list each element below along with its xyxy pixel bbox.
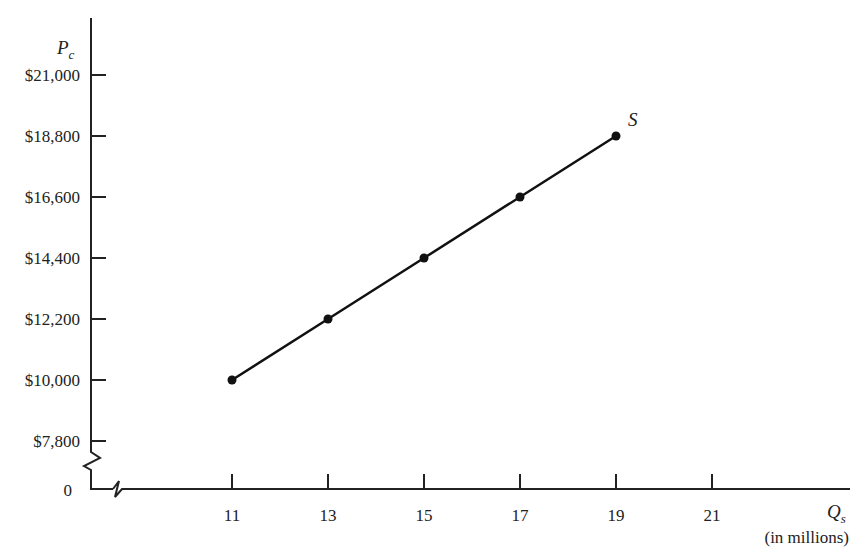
x-axis-title: Qs <box>827 501 846 526</box>
y-tick-label: $21,000 <box>25 66 80 85</box>
supply-chart: $7,800$10,000$12,200$14,400$16,600$18,80… <box>0 0 855 550</box>
x-ticks: 111315171921 <box>224 474 721 525</box>
x-tick-label: 11 <box>224 506 240 525</box>
y-ticks: $7,800$10,000$12,200$14,400$16,600$18,80… <box>25 66 106 451</box>
supply-curve-label: S <box>628 109 638 130</box>
data-point <box>228 376 237 385</box>
y-axis <box>84 18 113 489</box>
origin-label: 0 <box>64 481 73 500</box>
y-axis-title: Pc <box>56 37 75 62</box>
x-tick-label: 19 <box>608 506 625 525</box>
x-tick-label: 17 <box>512 506 530 525</box>
y-tick-label: $18,800 <box>25 127 80 146</box>
data-point <box>324 315 333 324</box>
x-tick-label: 15 <box>416 506 433 525</box>
data-point <box>612 132 621 141</box>
y-tick-label: $16,600 <box>25 188 80 207</box>
supply-curve: S <box>228 109 639 385</box>
x-tick-label: 13 <box>320 506 337 525</box>
data-point <box>420 254 429 263</box>
x-axis <box>113 481 850 497</box>
y-tick-label: $14,400 <box>25 249 80 268</box>
y-tick-label: $10,000 <box>25 371 80 390</box>
x-tick-label: 21 <box>704 506 721 525</box>
y-tick-label: $12,200 <box>25 310 80 329</box>
data-point <box>516 193 525 202</box>
x-axis-unit: (in millions) <box>764 528 849 547</box>
y-tick-label: $7,800 <box>33 432 80 451</box>
